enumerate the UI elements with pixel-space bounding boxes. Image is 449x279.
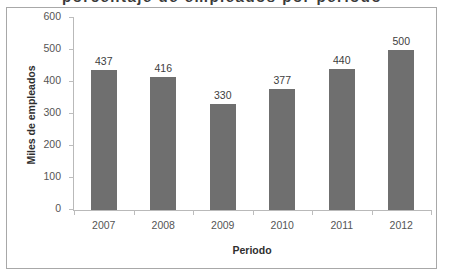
bar-value-label: 330 bbox=[214, 89, 232, 101]
chart-figure-frame: Miles de empleados 0100200300400500600 4… bbox=[6, 7, 437, 269]
x-axis-category-label: 2008 bbox=[152, 219, 175, 231]
y-axis-tick-label: 0 bbox=[55, 202, 61, 214]
x-axis-category-label: 2011 bbox=[330, 219, 353, 231]
x-axis-category-label: 2009 bbox=[211, 219, 234, 231]
bar-group[interactable]: 5002012 bbox=[372, 18, 432, 210]
clipped-heading-strip: porcentaje de empleados por periodo bbox=[0, 0, 449, 6]
y-axis-title: Miles de empleados bbox=[21, 18, 41, 211]
bar-group[interactable]: 4402011 bbox=[312, 18, 372, 210]
bar[interactable] bbox=[210, 104, 236, 210]
bar-group[interactable]: 3302009 bbox=[193, 18, 253, 210]
x-axis-tick bbox=[193, 210, 194, 215]
x-axis-category-label: 2012 bbox=[390, 219, 413, 231]
y-axis-tick-label: 200 bbox=[43, 138, 61, 150]
y-axis-title-text: Miles de empleados bbox=[25, 65, 37, 164]
x-axis-category-label: 2007 bbox=[92, 219, 115, 231]
bar[interactable] bbox=[329, 69, 355, 210]
x-axis-tick bbox=[372, 210, 373, 215]
x-axis-category-label: 2010 bbox=[271, 219, 294, 231]
x-axis-tick bbox=[74, 210, 75, 215]
bar[interactable] bbox=[388, 50, 414, 210]
x-axis-tick bbox=[253, 210, 254, 215]
y-axis-tick-label: 300 bbox=[43, 106, 61, 118]
x-axis-tick bbox=[431, 210, 432, 215]
plot-area: 0100200300400500600 43720074162008330200… bbox=[73, 18, 431, 211]
bars-layer: 4372007416200833020093772010440201150020… bbox=[74, 18, 431, 210]
bar-value-label: 416 bbox=[154, 62, 172, 74]
bar[interactable] bbox=[269, 89, 295, 210]
x-axis-title: Periodo bbox=[73, 244, 431, 256]
x-axis-tick bbox=[312, 210, 313, 215]
y-axis-tick-label: 600 bbox=[43, 10, 61, 22]
bar-group[interactable]: 4372007 bbox=[74, 18, 134, 210]
x-axis-tick bbox=[134, 210, 135, 215]
y-axis-tick-label: 500 bbox=[43, 42, 61, 54]
bar-group[interactable]: 4162008 bbox=[134, 18, 194, 210]
bar[interactable] bbox=[150, 77, 176, 210]
bar[interactable] bbox=[91, 70, 117, 210]
y-axis-tick-label: 100 bbox=[43, 170, 61, 182]
bar-group[interactable]: 3772010 bbox=[253, 18, 313, 210]
bar-value-label: 437 bbox=[95, 55, 113, 67]
bar-value-label: 440 bbox=[333, 54, 351, 66]
bar-value-label: 500 bbox=[392, 35, 410, 47]
clipped-heading-text: porcentaje de empleados por periodo bbox=[62, 0, 382, 5]
y-axis-tick-label: 400 bbox=[43, 74, 61, 86]
bar-value-label: 377 bbox=[273, 74, 291, 86]
